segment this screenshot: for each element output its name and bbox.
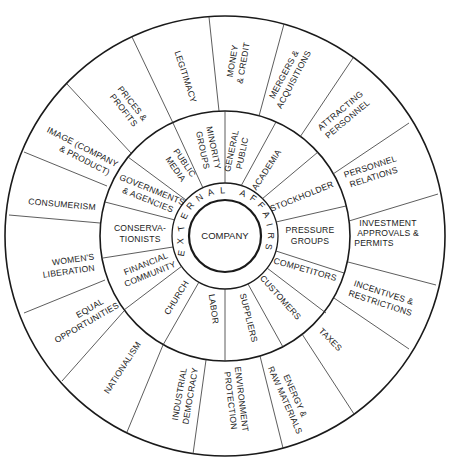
inner-segment-governments-agencies: GOVERNMENTS & AGENCIES — [114, 172, 186, 218]
company-label: COMPANY — [201, 230, 249, 241]
external-affairs-wheel-diagram: COMPANY E X T E R N A L A F F A I R S GE… — [0, 0, 449, 469]
outer-segment-consumerism: CONSUMERISM — [28, 196, 96, 212]
svg-text:LEGITIMACY: LEGITIMACY — [173, 50, 199, 105]
svg-text:T: T — [176, 224, 187, 232]
outer-segment-womens-liberation: WOMEN'S LIBERATION — [41, 252, 97, 280]
svg-text:LIBERATION: LIBERATION — [42, 263, 95, 280]
inner-segment-competitors: COMPETITORS — [273, 256, 338, 284]
svg-text:L: L — [220, 185, 226, 195]
svg-text:CHURCH: CHURCH — [162, 279, 191, 317]
outer-segment-image: IMAGE (COMPANY & PRODUCT) — [40, 125, 120, 179]
inner-segment-financial-community: FINANCIAL COMMUNITY — [119, 249, 178, 289]
svg-text:NATIONALISM: NATIONALISM — [102, 340, 143, 396]
svg-text:R: R — [266, 233, 276, 240]
svg-text:A: A — [238, 188, 248, 200]
inner-segment-labor: LABOR — [207, 293, 221, 324]
svg-text:COMPETITORS: COMPETITORS — [273, 256, 338, 284]
inner-segment-public-media: PUBLIC MEDIA — [162, 147, 198, 185]
svg-text:F: F — [256, 200, 267, 211]
svg-text:INVESTMENT: INVESTMENT — [359, 218, 417, 228]
outer-segment-industrial-democracy: INDUSTRIAL DEMOCRACY — [169, 365, 200, 426]
outer-segment-incentives-restrictions: INCENTIVES & RESTRICTIONS — [347, 278, 417, 319]
svg-text:SUPPLIERS: SUPPLIERS — [238, 292, 260, 343]
svg-text:R: R — [184, 200, 196, 212]
svg-text:LABOR: LABOR — [207, 293, 221, 324]
svg-text:CONSERVA-: CONSERVA- — [114, 223, 166, 233]
outer-segment-prices-profits: PRICES & PROFITS — [107, 84, 149, 130]
outer-segment-environment-protection: ENVIRONMENT PROTECTION — [222, 366, 251, 434]
outer-segment-energy-raw-materials: ENERGY & RAW MATERIALS — [266, 360, 315, 435]
svg-text:X: X — [175, 238, 185, 245]
svg-text:CONSUMERISM: CONSUMERISM — [28, 196, 96, 212]
svg-text:F: F — [248, 193, 259, 205]
svg-text:STOCKHOLDER: STOCKHOLDER — [269, 179, 335, 214]
inner-segment-minority-groups: MINORITY GROUPS — [193, 125, 223, 172]
inner-segment-suppliers: SUPPLIERS — [238, 292, 260, 343]
inner-segment-pressure-groups: PRESSURE GROUPS — [286, 225, 335, 246]
svg-text:E: E — [176, 249, 187, 257]
outer-segment-taxes: TAXES — [317, 326, 344, 353]
inner-segment-church: CHURCH — [162, 279, 191, 317]
outer-segment-legitimacy: LEGITIMACY — [173, 50, 199, 105]
inner-segment-stockholder: STOCKHOLDER — [269, 179, 335, 214]
outer-segment-investment-approvals: INVESTMENT APPROVALS & PERMITS — [354, 218, 419, 248]
outer-segment-money-credit: MONEY & CREDIT — [224, 39, 252, 84]
inner-segment-general-public: GENERAL PUBLIC — [222, 129, 251, 175]
outer-segment-nationalism: NATIONALISM — [102, 340, 143, 396]
inner-segment-conservationists: CONSERVA- TIONISTS — [114, 223, 166, 244]
svg-text:TIONISTS: TIONISTS — [119, 234, 160, 244]
svg-text:N: N — [194, 191, 205, 203]
svg-text:I: I — [264, 222, 274, 228]
outer-segment-personnel-relations: PERSONNEL RELATIONS — [343, 153, 402, 190]
svg-text:PRESSURE: PRESSURE — [286, 225, 335, 235]
svg-text:PERMITS: PERMITS — [354, 238, 394, 248]
svg-text:E: E — [179, 211, 191, 221]
outer-segment-attracting-personnel: ATTRACTING PERSONNEL — [316, 89, 373, 141]
svg-text:TAXES: TAXES — [317, 326, 344, 353]
svg-text:S: S — [263, 243, 274, 251]
svg-text:A: A — [206, 187, 216, 199]
svg-text:GROUPS: GROUPS — [291, 236, 330, 246]
outer-segment-mergers-acquisitions: MERGERS & ACQUISITIONS — [264, 44, 313, 110]
svg-text:APPROVALS &: APPROVALS & — [357, 228, 419, 238]
